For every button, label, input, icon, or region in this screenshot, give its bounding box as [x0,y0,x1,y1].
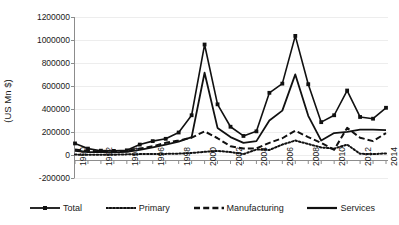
legend-swatch-solid-line [307,203,337,213]
x-tick-label: 2000 [209,147,218,166]
legend-item-manufacturing[interactable]: Manufacturing [194,203,284,213]
x-tick-label: 1998 [183,147,192,166]
x-tick-label: 2014 [390,147,399,166]
legend-item-services[interactable]: Services [307,203,375,213]
x-tick-label: 2012 [364,147,373,166]
y-axis-title: (US Mn $) [2,58,13,144]
x-tick-label: 1994 [131,147,140,166]
legend-swatch-line-square-marker [30,203,60,213]
legend-item-total[interactable]: Total [30,203,82,213]
x-tick-label: 2004 [260,147,269,166]
legend-swatch-dotted-line [106,203,136,213]
x-tick-label: 1990 [79,147,88,166]
x-tick-label: 1996 [157,147,166,166]
x-tick-label: 2002 [235,147,244,166]
legend-item-label: Primary [139,203,170,213]
legend-item-label: Manufacturing [227,203,284,213]
chart-legend: TotalPrimaryManufacturingServices [30,199,375,217]
x-tick-label: 2008 [312,147,321,166]
legend-swatch-dashed-line [194,203,224,213]
x-tick-label: 2010 [338,147,347,166]
x-tick-label: 1992 [105,147,114,166]
legend-item-primary[interactable]: Primary [106,203,170,213]
legend-item-label: Services [340,203,375,213]
x-tick-label: 2006 [286,147,295,166]
legend-item-label: Total [63,203,82,213]
